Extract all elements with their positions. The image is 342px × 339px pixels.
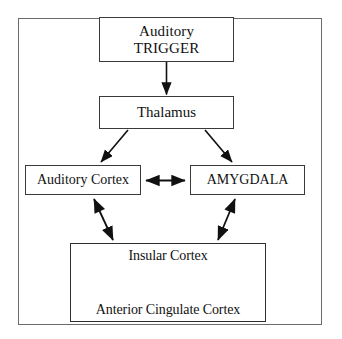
node-thalamus[interactable]: Thalamus xyxy=(99,96,234,129)
node-insular-cortex-group[interactable]: Insular Cortex Anterior Cingulate Cortex xyxy=(70,243,266,322)
node-amygdala-label: AMYGDALA xyxy=(207,172,289,187)
node-auditory-trigger-line1: Auditory xyxy=(139,23,194,39)
node-amygdala[interactable]: AMYGDALA xyxy=(190,165,305,195)
node-insular-cortex-label: Insular Cortex xyxy=(128,248,207,263)
node-anterior-cingulate-cortex-label: Anterior Cingulate Cortex xyxy=(96,302,240,317)
diagram-canvas: Auditory TRIGGER Thalamus Auditory Corte… xyxy=(0,0,342,339)
node-auditory-trigger[interactable]: Auditory TRIGGER xyxy=(99,17,234,62)
node-auditory-trigger-line2: TRIGGER xyxy=(134,40,200,56)
node-auditory-cortex[interactable]: Auditory Cortex xyxy=(25,165,141,195)
node-auditory-cortex-label: Auditory Cortex xyxy=(37,172,129,187)
node-thalamus-label: Thalamus xyxy=(137,104,196,120)
